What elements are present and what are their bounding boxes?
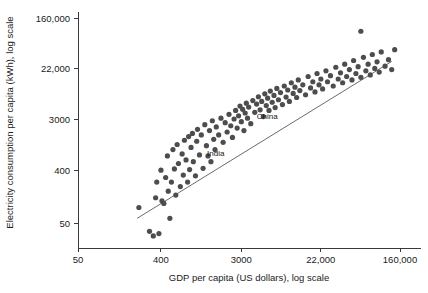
data-point — [147, 229, 152, 234]
data-point — [358, 29, 363, 34]
y-tick-label: 22,000 — [41, 63, 70, 74]
data-point — [370, 52, 375, 57]
data-point — [176, 161, 181, 166]
x-tick-label: 160,000 — [383, 254, 417, 265]
axes: 50400300022,000160,00050400300022,000160… — [36, 12, 421, 265]
data-point — [158, 168, 163, 173]
data-point — [323, 68, 328, 73]
data-point — [214, 124, 219, 129]
data-point — [264, 103, 269, 108]
x-tick-label: 3000 — [231, 254, 252, 265]
data-point — [389, 67, 394, 72]
x-tick-label: 22,000 — [306, 254, 335, 265]
data-point — [292, 85, 297, 90]
data-point — [349, 77, 354, 82]
data-point — [183, 157, 188, 162]
data-point — [193, 173, 198, 178]
axis-titles: GDP per capita (US dollars), log scaleEl… — [4, 16, 329, 283]
data-point — [187, 167, 192, 172]
data-point — [202, 122, 207, 127]
data-point — [306, 74, 311, 79]
data-point — [358, 75, 363, 80]
data-point — [368, 72, 373, 77]
data-point — [154, 180, 159, 185]
data-point — [151, 233, 156, 238]
data-point — [285, 87, 290, 92]
data-point — [314, 71, 319, 76]
data-point — [344, 74, 349, 79]
data-point — [226, 112, 231, 117]
data-point — [239, 119, 244, 124]
data-point — [278, 90, 283, 95]
data-point — [236, 113, 241, 118]
data-point — [228, 123, 233, 128]
data-point — [200, 166, 205, 171]
data-point — [250, 98, 255, 103]
data-point — [312, 89, 317, 94]
data-point — [163, 175, 168, 180]
data-point — [273, 105, 278, 110]
data-point — [173, 192, 178, 197]
data-point — [233, 108, 238, 113]
data-point — [188, 145, 193, 150]
x-tick-label: 400 — [153, 254, 169, 265]
data-point — [185, 180, 190, 185]
data-point — [262, 91, 267, 96]
data-point — [287, 99, 292, 104]
data-point — [166, 189, 171, 194]
data-point — [274, 86, 279, 91]
data-point — [308, 85, 313, 90]
data-point — [245, 116, 250, 121]
data-point — [374, 59, 379, 64]
annotation-label: China — [257, 112, 278, 121]
scatter-plot-figure: 50400300022,000160,00050400300022,000160… — [0, 0, 428, 293]
data-point — [363, 68, 368, 73]
data-point — [223, 120, 228, 125]
data-point — [204, 143, 209, 148]
data-point — [182, 138, 187, 143]
data-point — [191, 159, 196, 164]
data-point — [181, 172, 186, 177]
y-tick-label: 50 — [59, 218, 70, 229]
data-point — [291, 91, 296, 96]
data-point — [161, 201, 166, 206]
data-point — [382, 64, 387, 69]
data-point — [316, 82, 321, 87]
data-point — [372, 66, 377, 71]
data-point — [310, 79, 315, 84]
data-point — [338, 70, 343, 75]
data-point — [347, 67, 352, 72]
data-point — [178, 184, 183, 189]
data-point — [225, 129, 230, 134]
data-point — [197, 152, 202, 157]
data-point — [207, 128, 212, 133]
data-point — [283, 95, 288, 100]
data-point — [265, 96, 270, 101]
data-point — [296, 77, 301, 82]
data-point — [259, 99, 264, 104]
data-point — [280, 102, 285, 107]
data-point — [297, 88, 302, 93]
data-point — [328, 73, 333, 78]
annotation-label: India — [207, 149, 225, 158]
data-point — [336, 76, 341, 81]
data-point — [211, 137, 216, 142]
data-point — [208, 159, 213, 164]
data-point — [216, 132, 221, 137]
data-point — [136, 205, 141, 210]
data-point — [361, 55, 366, 60]
x-tick-label: 50 — [73, 254, 84, 265]
data-point — [392, 47, 397, 52]
data-point — [294, 95, 299, 100]
y-tick-label: 3000 — [49, 114, 70, 125]
data-point — [342, 62, 347, 67]
data-point — [230, 135, 235, 140]
data-point — [175, 142, 180, 147]
data-points — [136, 29, 397, 239]
y-tick-label: 400 — [54, 165, 70, 176]
data-point — [190, 131, 195, 136]
data-point — [180, 151, 185, 156]
data-point — [194, 139, 199, 144]
data-point — [289, 80, 294, 85]
data-point — [172, 166, 177, 171]
